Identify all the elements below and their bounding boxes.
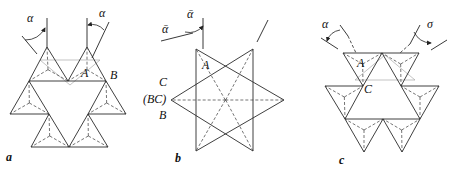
point-label: B bbox=[110, 68, 118, 82]
tetrahedron bbox=[383, 119, 420, 152]
panel-b: ᾱᾱAC(BC)Bb bbox=[143, 7, 284, 165]
rotated-axis-dashed bbox=[400, 44, 410, 53]
tetrahedron-edge-dashed bbox=[49, 114, 50, 136]
tetrahedron-outline bbox=[325, 86, 363, 119]
rotated-axis-dashed bbox=[348, 36, 356, 53]
rotated-axis bbox=[92, 22, 109, 58]
tetrahedral-sheet-diagram: ααABa ᾱᾱAC(BC)Bb ασACc bbox=[0, 0, 453, 172]
tetrahedron bbox=[10, 81, 49, 114]
panel-label: c bbox=[339, 153, 345, 167]
point-label: A bbox=[201, 58, 210, 72]
panel-c: ασACc bbox=[321, 17, 447, 167]
rotated-axis bbox=[22, 36, 37, 54]
point-label: B bbox=[159, 108, 167, 122]
angle-label: σ bbox=[427, 17, 434, 31]
tetrahedron-edge-dashed bbox=[106, 81, 107, 103]
figure-canvas: ααABa ᾱᾱAC(BC)Bb ασACc bbox=[0, 0, 453, 172]
panel-a: ααABa bbox=[6, 6, 126, 164]
tetrahedron-outline bbox=[88, 81, 126, 114]
angle-label: α bbox=[99, 6, 106, 20]
rotated-axis bbox=[340, 25, 348, 36]
tetrahedron bbox=[88, 81, 126, 114]
angle-label: ᾱ bbox=[187, 7, 194, 21]
rotation-arrow-icon bbox=[185, 26, 203, 33]
reference-axis bbox=[431, 40, 447, 50]
panel-label: a bbox=[6, 150, 12, 164]
point-label: C bbox=[364, 82, 373, 96]
tetrahedron bbox=[382, 53, 419, 86]
rotation-arrow-icon bbox=[327, 30, 340, 41]
point-label: C bbox=[159, 75, 168, 89]
reference-axis bbox=[321, 38, 338, 49]
panel-label: b bbox=[175, 151, 181, 165]
point-label: A bbox=[80, 66, 89, 80]
rotation-arrow-icon bbox=[88, 24, 104, 30]
tetrahedron bbox=[345, 119, 383, 152]
angle-label: ᾱ bbox=[162, 22, 169, 36]
tetrahedron bbox=[325, 86, 363, 119]
tetrahedron-edge-dashed bbox=[196, 100, 225, 151]
tetrahedron bbox=[401, 86, 439, 119]
tetrahedron-edge-dashed bbox=[344, 97, 345, 119]
angle-label: α bbox=[322, 17, 329, 31]
point-label: A bbox=[356, 56, 365, 70]
angle-label: α bbox=[27, 11, 34, 25]
tetrahedron bbox=[69, 114, 108, 147]
rotation-arrow-icon bbox=[25, 28, 45, 40]
point-label: (BC) bbox=[143, 92, 166, 106]
axis-line bbox=[257, 20, 268, 42]
tetrahedron bbox=[31, 114, 69, 147]
rotation-arrow-icon bbox=[414, 32, 431, 43]
tetrahedron-outline bbox=[31, 114, 69, 147]
tetrahedron-edge-dashed bbox=[196, 49, 225, 100]
